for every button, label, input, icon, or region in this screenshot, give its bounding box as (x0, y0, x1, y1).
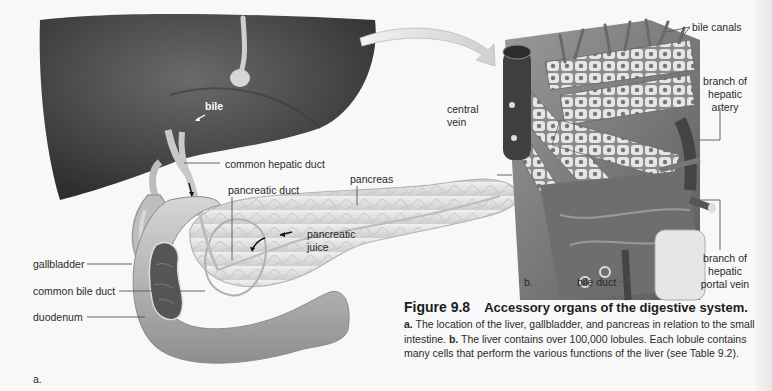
label-hepatic-artery-line3: artery (695, 101, 755, 113)
label-common-hepatic-duct: common hepatic duct (225, 158, 325, 170)
caption-body: a. The location of the liver, gallbladde… (404, 317, 764, 361)
label-pancreatic-duct: pancreatic duct (228, 184, 299, 196)
figure-caption: Figure 9.8Accessory organs of the digest… (404, 299, 764, 361)
lobule-block (503, 20, 716, 300)
label-portal-vein-line3: portal vein (690, 278, 760, 290)
label-pancreatic-juice-line1: pancreatic (307, 228, 355, 240)
label-common-bile-duct: common bile duct (33, 285, 115, 297)
label-pancreatic-juice-line2: juice (307, 241, 329, 253)
label-central-vein-line2: vein (447, 116, 466, 128)
textbook-page: bile common hepatic duct pancreatic duct… (0, 0, 772, 391)
label-bile: bile (205, 100, 223, 112)
caption-part-a-marker: a. (404, 318, 413, 330)
label-duodenum: duodenum (33, 311, 83, 323)
label-central-vein-line1: central (447, 103, 479, 115)
label-gallbladder: gallbladder (33, 258, 84, 270)
panel-a-label: a. (33, 373, 42, 385)
magnify-arrow (360, 28, 495, 66)
label-hepatic-artery-line2: hepatic (695, 88, 755, 100)
label-portal-vein-line2: hepatic (690, 265, 760, 277)
caption-part-b-marker: b. (449, 333, 458, 345)
central-vein-shape (503, 50, 531, 160)
label-bile-duct: bile duct (577, 276, 616, 288)
label-portal-vein-line1: branch of (690, 252, 760, 264)
label-pancreas: pancreas (350, 173, 393, 185)
figure-number: Figure 9.8 (404, 299, 470, 315)
label-hepatic-artery-line1: branch of (695, 75, 755, 87)
caption-title: Figure 9.8Accessory organs of the digest… (404, 299, 764, 316)
label-bile-canals: bile canals (692, 21, 742, 33)
figure-title: Accessory organs of the digestive system… (484, 300, 748, 315)
panel-b-label: b. (524, 276, 533, 288)
